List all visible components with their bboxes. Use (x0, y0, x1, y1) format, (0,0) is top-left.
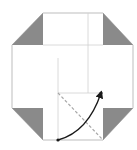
start-point (56, 138, 59, 141)
flap-top-right (103, 13, 133, 45)
origami-diagram (0, 0, 137, 150)
target-point (99, 91, 102, 94)
